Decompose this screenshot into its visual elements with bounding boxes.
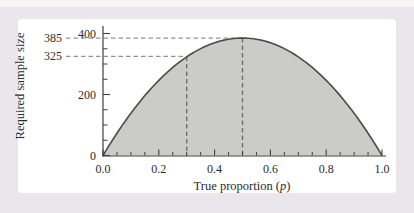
x-axis-title-prefix: True proportion (: [194, 179, 280, 193]
y-tick-label: 200: [78, 88, 96, 102]
x-tick-label: 0.0: [96, 162, 111, 176]
annotation-value-label: 325: [44, 49, 62, 63]
x-tick-label: 0.6: [263, 162, 278, 176]
chart-plot-area: 32538502004000.00.20.40.60.81.0: [44, 26, 390, 176]
x-axis-title: True proportion (p): [194, 179, 291, 193]
x-axis-title-suffix: ): [286, 179, 290, 193]
y-axis-title: Required sample size: [13, 32, 27, 139]
x-tick-label: 1.0: [375, 162, 390, 176]
chart-svg: 32538502004000.00.20.40.60.81.0 Required…: [0, 0, 414, 213]
x-tick-label: 0.2: [151, 162, 166, 176]
y-axis-title-text: Required sample size: [13, 32, 27, 139]
y-tick-label: 0: [90, 149, 96, 163]
y-tick-label: 400: [78, 27, 96, 41]
annotation-value-label: 385: [44, 31, 62, 45]
x-tick-label: 0.4: [207, 162, 222, 176]
x-tick-label: 0.8: [319, 162, 334, 176]
figure-sample-size-chart: 32538502004000.00.20.40.60.81.0 Required…: [0, 0, 414, 213]
x-axis-title-var: p: [279, 179, 286, 193]
